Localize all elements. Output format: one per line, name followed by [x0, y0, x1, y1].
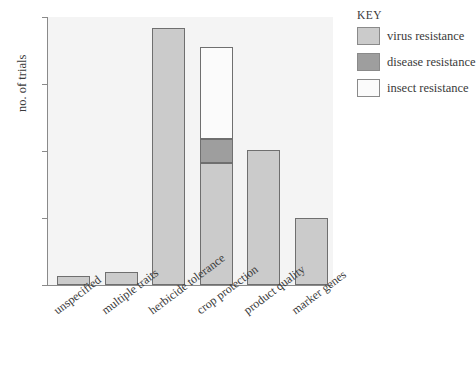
bar-segment — [200, 47, 233, 139]
bar-segment — [200, 139, 233, 163]
legend-swatch — [357, 79, 380, 97]
bar-segment — [152, 28, 185, 285]
y-axis-tick — [42, 84, 48, 85]
legend-item-label: disease resistance — [387, 55, 476, 70]
legend-title: KEY — [357, 9, 469, 21]
chart-legend: KEY virus resistancedisease resistancein… — [357, 9, 469, 105]
legend-item: insect resistance — [357, 79, 469, 97]
y-axis-tick — [42, 151, 48, 152]
legend-item: virus resistance — [357, 27, 469, 45]
bar — [152, 28, 185, 285]
y-axis-tick — [42, 17, 48, 18]
legend-item-label: insect resistance — [387, 81, 469, 96]
legend-item-label: virus resistance — [387, 29, 464, 44]
y-axis-title: no. of trials — [15, 55, 30, 112]
legend-entries: virus resistancedisease resistanceinsect… — [357, 27, 469, 97]
bar — [200, 46, 233, 285]
legend-item: disease resistance — [357, 53, 469, 71]
plot-area: no. of trials 050100150200 unspecifiedmu… — [47, 17, 333, 286]
y-axis-tick — [42, 285, 48, 286]
legend-swatch — [357, 53, 380, 71]
legend-swatch — [357, 27, 380, 45]
y-axis-tick — [42, 218, 48, 219]
